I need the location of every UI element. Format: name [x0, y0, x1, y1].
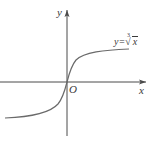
curve-label: y=3√x	[114, 36, 138, 47]
radicand: x	[132, 36, 138, 47]
origin-label: O	[69, 84, 77, 95]
x-axis-label: x	[139, 85, 144, 96]
cube-root-graph: y O x y=3√x	[0, 0, 155, 147]
radical-index: 3	[127, 32, 130, 38]
y-axis-label: y	[57, 7, 62, 18]
plot-area	[0, 0, 155, 147]
curve-label-prefix: y=	[114, 36, 125, 47]
